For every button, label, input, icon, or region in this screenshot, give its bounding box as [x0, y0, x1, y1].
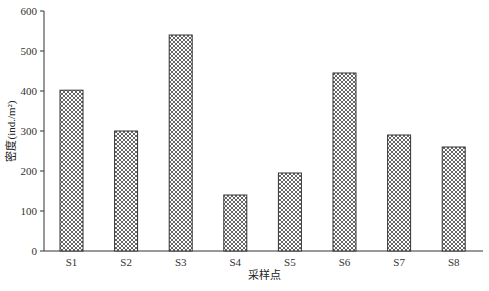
x-tick-label: S8 — [448, 256, 460, 268]
y-tick-label: 100 — [21, 205, 38, 217]
bar-s8 — [442, 147, 465, 251]
y-tick-label: 300 — [21, 125, 38, 137]
y-tick-label: 200 — [21, 165, 38, 177]
bar-s7 — [388, 135, 411, 251]
x-tick-label: S5 — [284, 256, 296, 268]
bar-s5 — [278, 173, 301, 251]
x-axis-title: 采样点 — [248, 268, 281, 281]
y-tick-label: 500 — [21, 45, 38, 57]
x-tick-label: S2 — [120, 256, 132, 268]
bar-s1 — [60, 90, 83, 251]
x-axis: S1S2S3S4S5S6S7S8 — [44, 251, 483, 268]
y-tick-label: 600 — [21, 5, 38, 17]
y-tick-label: 400 — [21, 85, 38, 97]
x-tick-label: S4 — [229, 256, 241, 268]
x-tick-label: S6 — [339, 256, 351, 268]
y-axis: 0100200300400500600 — [21, 5, 45, 257]
bar-chart: 0100200300400500600 S1S2S3S4S5S6S7S8 密度(… — [0, 0, 489, 291]
bars — [60, 35, 465, 251]
bar-s2 — [115, 131, 138, 251]
y-axis-title: 密度(ind./m²) — [4, 100, 18, 161]
bar-s4 — [224, 195, 247, 251]
x-tick-label: S3 — [175, 256, 187, 268]
y-tick-label: 0 — [32, 245, 38, 257]
bar-s6 — [333, 73, 356, 251]
x-tick-label: S7 — [393, 256, 405, 268]
x-tick-label: S1 — [66, 256, 78, 268]
bar-s3 — [169, 35, 192, 251]
